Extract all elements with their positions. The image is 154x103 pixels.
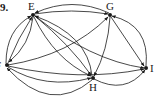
node-g — [108, 13, 112, 17]
node-f — [5, 63, 9, 67]
edge-h-e — [35, 16, 92, 76]
node-h — [91, 76, 95, 80]
edge-f-g — [8, 17, 108, 65]
directed-graph — [0, 0, 154, 103]
edge-g-h — [94, 17, 110, 76]
edge-g-e — [35, 5, 109, 14]
node-label-f: F — [0, 60, 1, 71]
edge-e-h — [34, 17, 91, 76]
node-e — [31, 13, 35, 17]
node-label-h: H — [89, 82, 97, 93]
node-i — [144, 66, 148, 70]
edge-h-i — [94, 70, 145, 85]
node-label-i: I — [150, 63, 154, 74]
edge-i-g — [112, 16, 146, 66]
edge-e-h-2 — [35, 16, 91, 75]
edge-g-i — [111, 17, 144, 66]
node-label-e: E — [28, 1, 35, 12]
edge-e-g — [34, 11, 108, 14]
node-label-g: G — [106, 1, 114, 12]
